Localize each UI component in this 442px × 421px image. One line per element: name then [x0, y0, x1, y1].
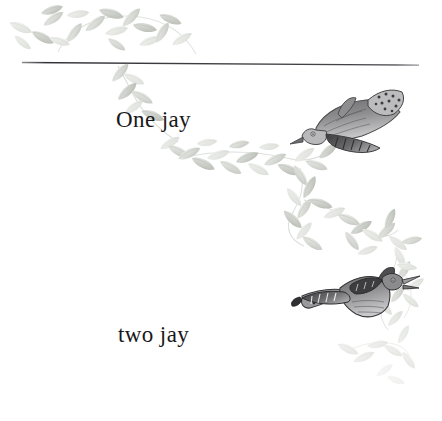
foliage-top-arc: [8, 3, 196, 54]
caption-two-jay: two jay: [118, 322, 189, 348]
caption-one-jay: One jay: [116, 107, 191, 133]
page-artwork: [0, 0, 442, 421]
jay-bird-upper: [290, 90, 404, 152]
book-page: One jay two jay: [0, 0, 442, 421]
foliage-right-descending-vine: [281, 163, 409, 257]
horizontal-rule: [22, 63, 419, 66]
foliage-bottom-fading-vine: [336, 323, 418, 386]
